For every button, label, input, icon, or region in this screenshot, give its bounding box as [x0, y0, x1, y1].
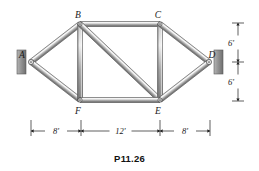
dimension-arrow-h-1-start	[81, 129, 84, 132]
dimension-label-v-0: 6'	[228, 38, 234, 48]
horizontal-dimension-group: 8'12'8'	[31, 120, 210, 136]
joint-center-B	[79, 23, 81, 25]
truss-member-AF	[29, 60, 81, 102]
dimension-label-h-0: 8'	[53, 126, 59, 136]
truss-member-CD	[158, 22, 210, 64]
dimension-arrow-v-0-top	[236, 23, 239, 26]
dimension-arrow-h-0-start	[31, 129, 34, 132]
joint-label-C: C	[155, 10, 162, 20]
dimension-arrow-v-1-top	[236, 62, 239, 65]
dimension-label-h-2: 8'	[182, 126, 188, 136]
truss-member-BF	[77, 24, 82, 100]
joint-center-D	[208, 61, 210, 63]
joint-center-F	[79, 99, 81, 101]
truss-member-BE	[78, 22, 162, 102]
joint-label-A: A	[18, 50, 25, 60]
dimension-arrow-h-1-end	[157, 129, 160, 132]
joint-label-B: B	[75, 10, 81, 20]
truss-member-FE	[80, 97, 160, 102]
joint-label-E: E	[154, 106, 161, 116]
truss-member-CE	[157, 24, 162, 100]
dimension-arrow-v-0-bottom	[236, 59, 239, 62]
truss-member-AB	[29, 22, 81, 64]
figure-caption: P11.26	[114, 153, 145, 164]
joint-center-E	[159, 99, 161, 101]
dimension-label-h-1: 12'	[115, 126, 126, 136]
truss-member-BC	[80, 21, 160, 26]
joint-label-D: D	[208, 50, 216, 60]
joint-center-A	[30, 61, 32, 63]
truss-diagram-canvas: ABCDEF 8'12'8' 6'6' P11.26	[0, 0, 259, 171]
vertical-dimension-group: 6'6'	[228, 23, 244, 101]
truss-members-group	[29, 21, 210, 102]
joint-center-C	[159, 23, 161, 25]
joint-label-F: F	[74, 106, 81, 116]
dimension-label-v-1: 6'	[228, 77, 234, 87]
dimension-arrow-h-2-end	[207, 129, 210, 132]
dimension-arrow-h-0-end	[78, 129, 81, 132]
dimension-arrow-v-1-bottom	[236, 98, 239, 101]
truss-member-ED	[158, 60, 210, 102]
dimension-arrow-h-2-start	[160, 129, 163, 132]
truss-figure: ABCDEF 8'12'8' 6'6' P11.26	[0, 0, 259, 171]
